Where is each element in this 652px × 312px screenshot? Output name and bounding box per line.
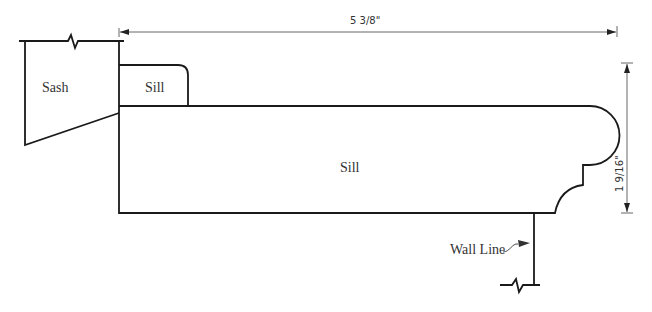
sill-diagram: Sash Sill Sill Wall Line 5 3/8" 1 9/16" [0, 0, 652, 312]
small-sill-label: Sill [145, 80, 165, 95]
sash-shape [19, 35, 124, 145]
wall-line-label: Wall Line [450, 242, 505, 257]
sash-label: Sash [42, 80, 68, 95]
wall-line-leader [503, 240, 530, 252]
main-sill-shape [119, 41, 620, 213]
width-dimension-label: 5 3/8" [350, 15, 380, 26]
main-sill-label: Sill [340, 160, 360, 175]
wall-line [500, 213, 540, 292]
width-dimension [119, 26, 617, 37]
height-dimension-label: 1 9/16" [614, 155, 625, 192]
